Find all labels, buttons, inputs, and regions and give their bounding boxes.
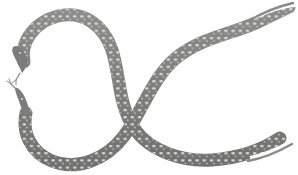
snake-upper-eye [19,52,21,54]
artwork-canvas: Two Intertwined Snakes A pair of pattern… [0,0,298,175]
snakes-illustration [0,0,298,175]
snake-lower-eye [21,98,23,100]
